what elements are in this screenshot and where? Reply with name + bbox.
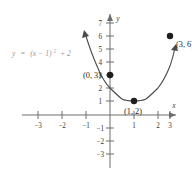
coordinate-plane: −3 −2 −1 1 2 3 1 2 3 4 5 6 7 −1 −2 −3 x … <box>0 0 192 178</box>
data-point-0-3 <box>107 72 113 78</box>
equation-body-open: (x − 1) <box>30 49 52 58</box>
y-tick-label-5: 5 <box>98 46 102 54</box>
y-tick-label-neg1: −1 <box>96 125 104 133</box>
x-tick-label-1: 1 <box>132 122 136 130</box>
equation-annotation: y = (x − 1) 2 + 2 <box>11 46 71 58</box>
point-label-0-3: (0, 3) <box>83 71 101 80</box>
equation-equals: = <box>20 49 25 58</box>
y-axis-arrow-icon <box>107 14 113 21</box>
equation-lhs: y <box>11 49 16 58</box>
data-point-1-2 <box>131 98 137 104</box>
x-tick-label-neg1: −1 <box>82 122 90 130</box>
y-tick-label-1: 1 <box>98 98 102 106</box>
x-tick-label-neg2: −2 <box>58 122 66 130</box>
point-label-1-2: (1, 2) <box>124 107 142 116</box>
y-tick-label-7: 7 <box>98 20 102 28</box>
y-tick-label-4: 4 <box>98 59 102 67</box>
y-tick-label-neg2: −2 <box>96 138 104 146</box>
graph-figure: −3 −2 −1 1 2 3 1 2 3 4 5 6 7 −1 −2 −3 x … <box>0 0 192 178</box>
y-tick-label-6: 6 <box>98 33 102 41</box>
data-point-3-6 <box>167 33 173 39</box>
equation-body-close: + 2 <box>60 49 71 58</box>
x-tick-label-2: 2 <box>156 122 160 130</box>
y-tick-label-neg3: −3 <box>96 151 104 159</box>
x-tick-label-neg3: −3 <box>34 122 42 130</box>
equation-exponent: 2 <box>53 48 56 54</box>
y-tick-label-2: 2 <box>98 85 102 93</box>
x-tick-label-3: 3 <box>168 122 172 130</box>
y-axis-label: y <box>115 14 120 23</box>
x-axis-label: x <box>171 101 176 110</box>
curve-left-arrow-icon <box>82 30 89 38</box>
point-label-3-6: (3, 6) <box>176 40 192 49</box>
